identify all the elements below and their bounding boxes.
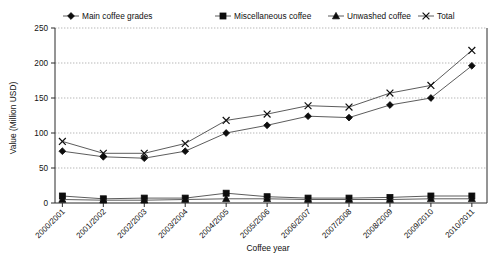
- x-axis-tick-label: 2003/2004: [157, 207, 190, 240]
- legend-label: Miscellaneous coffee: [234, 11, 312, 21]
- chart-legend: Main coffee gradesMiscellaneous coffeeUn…: [63, 11, 455, 21]
- data-point-marker: [223, 130, 230, 137]
- data-point-marker: [59, 138, 66, 145]
- data-point-marker: [182, 140, 189, 147]
- legend-item-miscellaneous-coffee: Miscellaneous coffee: [215, 11, 312, 21]
- data-point-marker: [100, 153, 107, 160]
- legend-label: Total: [437, 11, 455, 21]
- legend-label: Main coffee grades: [82, 11, 152, 21]
- x-axis: 2000/20012001/20022002/20032003/20042004…: [34, 28, 487, 240]
- legend-item-unwashed-coffee: Unwashed coffee: [328, 11, 411, 21]
- x-axis-tick-label: 2001/2002: [75, 207, 108, 240]
- y-axis-tick-label: 0: [43, 199, 48, 208]
- data-point-marker: [387, 102, 394, 109]
- data-point-marker: [68, 13, 75, 20]
- x-axis-tick-label: 2002/2003: [116, 207, 149, 240]
- series-line: [62, 66, 471, 158]
- x-axis-title: Coffee year: [246, 243, 289, 253]
- coffee-value-line-chart: Main coffee gradesMiscellaneous coffeeUn…: [0, 0, 499, 271]
- data-point-marker: [220, 13, 226, 19]
- y-axis-tick-label: 250: [34, 24, 48, 33]
- legend-label: Unwashed coffee: [347, 11, 411, 21]
- data-point-marker: [468, 47, 475, 54]
- data-point-marker: [59, 148, 66, 155]
- y-axis-tick-label: 200: [34, 59, 48, 68]
- legend-item-total: Total: [418, 11, 455, 21]
- x-axis-tick-label: 2000/2001: [34, 207, 67, 240]
- data-point-marker: [182, 148, 189, 155]
- x-axis-tick-label: 2009/2010: [402, 207, 435, 240]
- y-axis-title: Value (Million USD): [8, 82, 18, 155]
- gridlines: [55, 28, 487, 168]
- x-axis-tick-label: 2007/2008: [320, 207, 353, 240]
- series-total: [59, 47, 475, 157]
- series-layer: [59, 47, 475, 203]
- figure-container: Main coffee gradesMiscellaneous coffeeUn…: [0, 0, 499, 271]
- y-axis-tick-label: 50: [39, 164, 49, 173]
- data-point-marker: [346, 114, 353, 121]
- legend-item-main-coffee-grades: Main coffee grades: [63, 11, 152, 21]
- x-axis-tick-label: 2008/2009: [361, 207, 394, 240]
- x-axis-tick-label: 2006/2007: [279, 207, 312, 240]
- data-point-marker: [264, 122, 271, 129]
- x-axis-tick-label: 2005/2006: [238, 207, 271, 240]
- series-main-coffee-grades: [59, 62, 475, 161]
- x-axis-tick-label: 2010/2011: [444, 207, 477, 240]
- x-axis-tick-label: 2004/2005: [197, 207, 230, 240]
- data-point-marker: [305, 113, 312, 120]
- y-axis-tick-label: 150: [34, 94, 48, 103]
- y-axis-tick-label: 100: [34, 129, 48, 138]
- y-axis: 050100150200250: [34, 24, 55, 208]
